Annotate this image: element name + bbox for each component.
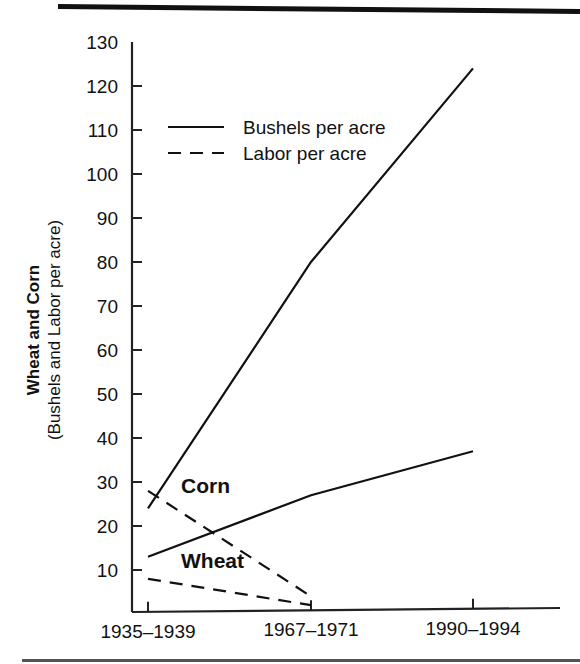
y-tick-label: 120 bbox=[86, 76, 118, 97]
y-tick-label: 110 bbox=[88, 120, 118, 141]
line-chart-plot: 102030405060708090100110120130 Wheat and… bbox=[0, 0, 580, 664]
y-tick-label: 10 bbox=[97, 560, 118, 581]
y-axis: 102030405060708090100110120130 Wheat and… bbox=[24, 32, 142, 612]
legend-label-bushels: Bushels per acre bbox=[243, 117, 386, 138]
legend-label-labor: Labor per acre bbox=[243, 143, 367, 164]
y-tick-label: 20 bbox=[97, 516, 118, 537]
x-axis-line bbox=[132, 608, 560, 612]
y-tick-label: 80 bbox=[97, 252, 118, 273]
y-tick-label: 40 bbox=[97, 428, 118, 449]
series-label-wheat: Wheat bbox=[181, 549, 244, 572]
y-axis-tick-labels: 102030405060708090100110120130 bbox=[86, 32, 118, 581]
series-line-corn-labor bbox=[148, 491, 311, 597]
x-tick-label: 1967–1971 bbox=[263, 619, 358, 640]
x-axis: 1935–19391967–19711990–1994 bbox=[100, 599, 560, 642]
series-line-wheat-bushels bbox=[148, 451, 473, 557]
series-label-corn: Corn bbox=[181, 474, 230, 497]
y-tick-label: 130 bbox=[86, 32, 118, 53]
y-tick-label: 30 bbox=[97, 472, 118, 493]
y-axis-title: Wheat and Corn bbox=[24, 265, 43, 395]
y-tick-label: 100 bbox=[86, 164, 118, 185]
y-tick-label: 60 bbox=[97, 340, 118, 361]
x-tick-label: 1935–1939 bbox=[100, 621, 195, 642]
x-tick-label: 1990–1994 bbox=[425, 618, 521, 639]
y-axis-tick-marks bbox=[132, 86, 142, 570]
y-tick-label: 90 bbox=[97, 208, 118, 229]
y-axis-subtitle: (Bushels and Labor per acre) bbox=[45, 220, 64, 440]
series-line-wheat-labor bbox=[148, 579, 311, 605]
legend: Bushels per acre Labor per acre bbox=[168, 117, 386, 164]
chart-figure: 102030405060708090100110120130 Wheat and… bbox=[0, 0, 580, 664]
y-tick-label: 50 bbox=[97, 384, 118, 405]
bottom-rule-divider bbox=[22, 659, 580, 662]
y-tick-label: 70 bbox=[97, 296, 118, 317]
x-axis-tick-labels: 1935–19391967–19711990–1994 bbox=[100, 618, 521, 642]
